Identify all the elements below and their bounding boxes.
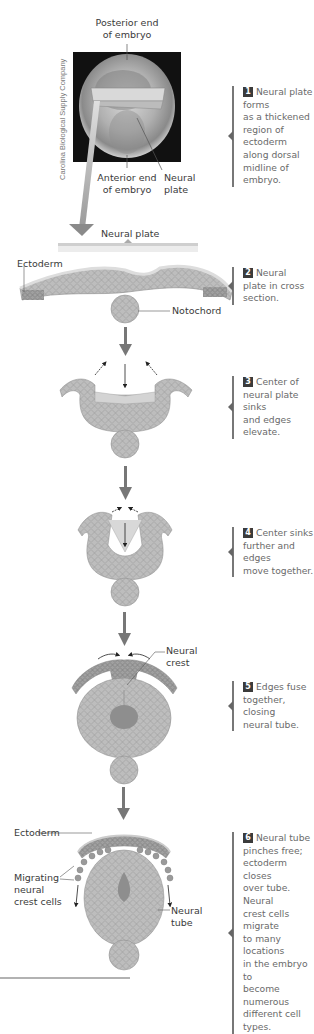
pointer-icon [228, 701, 233, 711]
step-badge: 4 [243, 528, 253, 538]
step-badge: 6 [243, 833, 253, 843]
step-badge: 1 [243, 87, 253, 97]
caption-line: to many locations [243, 933, 314, 958]
neural-plate-header-label: Neural plate [101, 228, 159, 240]
caption-line: plate in cross [243, 280, 304, 293]
label-line: Neural [164, 172, 195, 184]
neural-crest-label: Neural crest [166, 645, 197, 669]
step-4-caption: 4Center sinks further and edges move tog… [232, 527, 314, 577]
caption-line: 6Neural tube [243, 832, 314, 845]
arrow-3-4 [119, 466, 132, 500]
label-line: tube [171, 917, 202, 929]
caption-line: 4Center sinks [243, 527, 314, 540]
caption-line: neural plate sinks [243, 389, 314, 414]
caption-line: 5Edges fuse [243, 681, 314, 694]
posterior-end-label: Posterior end of embryo [95, 17, 159, 41]
arrow-2-3 [119, 327, 132, 356]
pointer-icon [228, 402, 233, 412]
label-line: plate [164, 184, 195, 196]
pointer-icon [228, 928, 233, 938]
anterior-end-label: Anterior end of embryo [97, 172, 157, 196]
caption-line: as a thickened region of [243, 111, 314, 136]
label-line: crest [166, 657, 197, 669]
ectoderm-label-bottom: Ectoderm [14, 827, 60, 839]
caption-line: 2Neural [243, 267, 304, 280]
caption-line: neural tube. [243, 719, 314, 732]
caption-text: Edges fuse [256, 681, 306, 692]
caption-text: Neural plate forms [243, 86, 313, 110]
caption-line: 1Neural plate forms [243, 86, 314, 111]
ectoderm-label-top: Ectoderm [17, 258, 63, 270]
caption-line: 3Center of [243, 376, 314, 389]
pointer-icon [228, 281, 233, 291]
caption-text: Neural tube [256, 832, 310, 843]
migrating-neural-crest-label: Migrating neural crest cells [14, 872, 62, 908]
caption-line: different cell types. [243, 1008, 314, 1033]
caption-line: pinches free; [243, 845, 314, 858]
arrow-5-6 [117, 787, 130, 820]
step-2-caption: 2Neural plate in cross section. [232, 267, 304, 305]
pointer-icon [228, 547, 233, 557]
step-1-caption: 1Neural plate forms as a thickened regio… [232, 86, 314, 187]
arrow-4-5 [118, 612, 131, 646]
step-badge: 2 [243, 268, 253, 278]
stage-3-neural-groove [60, 363, 192, 458]
label-line: neural [14, 884, 62, 896]
step-3-caption: 3Center of neural plate sinks and edges … [232, 376, 314, 439]
caption-line: midline of embryo. [243, 162, 314, 187]
caption-text: Center of [256, 376, 299, 387]
step-6-caption: 6Neural tube pinches free; ectoderm clos… [232, 832, 314, 1034]
label-line: of embryo [95, 29, 159, 41]
caption-line: over tube. Neural [243, 882, 314, 907]
caption-line: become numerous [243, 983, 314, 1008]
stage-5-closing-tube [72, 652, 177, 784]
caption-line: and edges elevate. [243, 414, 314, 439]
neural-tube-label: Neural tube [171, 905, 202, 929]
caption-line: in the embryo to [243, 958, 314, 983]
neural-plate-photo-label: Neural plate [164, 172, 195, 196]
caption-text: Neural [256, 267, 286, 278]
step-5-caption: 5Edges fuse together, closing neural tub… [232, 681, 314, 731]
caption-line: ectoderm along dorsal [243, 136, 314, 161]
label-line: crest cells [14, 896, 62, 908]
step-badge: 3 [243, 377, 253, 387]
neural-plate-bracket [58, 239, 198, 252]
caption-line: together, closing [243, 694, 314, 719]
caption-text: Center sinks [256, 527, 313, 538]
caption-line: crest cells migrate [243, 908, 314, 933]
label-line: Anterior end [97, 172, 157, 184]
notochord-label: Notochord [172, 305, 221, 317]
step-badge: 5 [243, 682, 253, 692]
label-line: Neural [166, 645, 197, 657]
label-line: Neural [171, 905, 202, 917]
label-line: Migrating [14, 872, 62, 884]
caption-line: further and edges [243, 540, 314, 565]
caption-line: ectoderm closes [243, 857, 314, 882]
pointer-icon [228, 131, 233, 141]
label-line: Posterior end [95, 17, 159, 29]
photo-credit: Carolina Biological Supply Company [58, 50, 68, 180]
label-line: of embryo [97, 184, 157, 196]
caption-line: move together. [243, 565, 314, 578]
caption-line: section. [243, 292, 304, 305]
stage-4-neural-fold [78, 508, 172, 606]
